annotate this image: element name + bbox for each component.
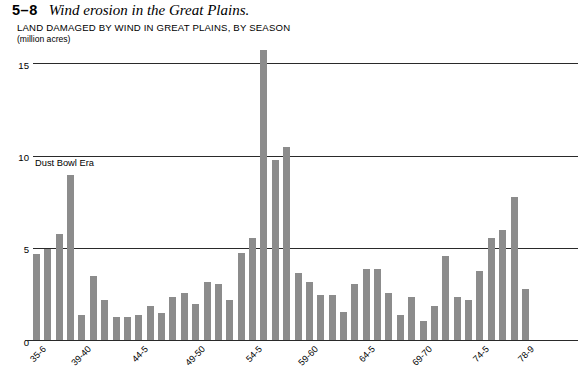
x-tick-label: 74-5 [471, 344, 491, 364]
x-tick-label: 44-5 [130, 344, 150, 364]
y-tick-label-0: 0 [24, 336, 29, 347]
bar [295, 273, 302, 341]
bar [442, 256, 449, 341]
figure-title: Wind erosion in the Great Plains. [49, 2, 250, 19]
bar [385, 293, 392, 341]
bar [374, 269, 381, 341]
y-tick-label-15: 15 [18, 59, 29, 70]
bar [488, 238, 495, 341]
x-tick-label: 64-5 [357, 344, 377, 364]
bar [44, 249, 51, 341]
bar [351, 284, 358, 341]
bar [260, 50, 267, 341]
x-tick-label: 78-9 [516, 344, 536, 364]
bar [465, 300, 472, 341]
bar [101, 300, 108, 341]
x-tick-label: 69-70 [410, 344, 434, 368]
bar [124, 317, 131, 341]
y-tick-label-10: 10 [18, 152, 29, 163]
x-tick-label: 49-50 [183, 344, 207, 368]
bar [272, 160, 279, 341]
bar [408, 297, 415, 341]
bar [158, 313, 165, 341]
bar [329, 295, 336, 341]
bar [511, 197, 518, 341]
bar [476, 271, 483, 341]
x-axis-labels: 35-639-4044-549-5054-559-6064-569-7074-5… [33, 344, 578, 377]
bar [169, 297, 176, 341]
chart-units: (million acres) [17, 34, 290, 46]
bar [33, 254, 40, 341]
y-tick-label-5: 5 [24, 244, 29, 255]
x-tick-label: 35-6 [27, 344, 47, 364]
bar [454, 297, 461, 341]
chart-subtitle-block: LAND DAMAGED BY WIND IN GREAT PLAINS, BY… [17, 22, 290, 45]
plot-area: 051015 Dust Bowl Era [33, 46, 578, 341]
x-tick-label: 39-40 [69, 344, 93, 368]
bar [215, 284, 222, 341]
bar [522, 289, 529, 341]
bar [431, 306, 438, 341]
bar [397, 315, 404, 341]
bar [249, 238, 256, 341]
figure-number: 5–8 [12, 2, 38, 18]
bar [78, 315, 85, 341]
bar [113, 317, 120, 341]
x-tick-label: 59-60 [297, 344, 321, 368]
bar [67, 175, 74, 341]
bar [204, 282, 211, 341]
figure-header: 5–8 Wind erosion in the Great Plains. [12, 2, 249, 19]
bar [56, 234, 63, 341]
bar [499, 230, 506, 341]
x-tick-label: 54-5 [244, 344, 264, 364]
bar [147, 306, 154, 341]
bar [306, 282, 313, 341]
x-axis-line [25, 340, 578, 341]
chart-subtitle: LAND DAMAGED BY WIND IN GREAT PLAINS, BY… [17, 22, 290, 34]
bar [317, 295, 324, 341]
bar [90, 276, 97, 341]
bar [181, 293, 188, 341]
bar [420, 321, 427, 341]
bar [238, 253, 245, 342]
bar-series [33, 46, 578, 341]
bar [135, 315, 142, 341]
bar [340, 312, 347, 342]
bar [226, 300, 233, 341]
figure-wind-erosion: 5–8 Wind erosion in the Great Plains. LA… [0, 0, 586, 377]
bar [192, 304, 199, 341]
bar [363, 269, 370, 341]
bar [283, 147, 290, 341]
